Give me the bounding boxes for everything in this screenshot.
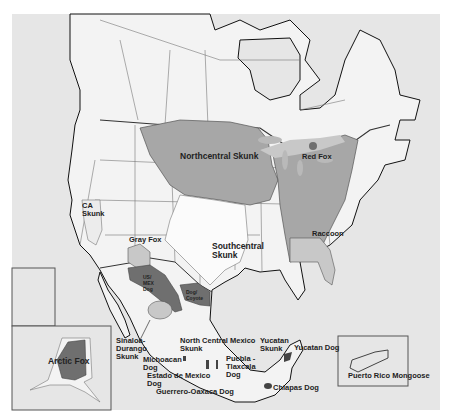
label-north-central-mexico-skunk: North Central Mexico Skunk bbox=[180, 337, 255, 353]
region-sinaloa-durango-skunk bbox=[148, 301, 172, 319]
label-northcentral-skunk: Northcentral Skunk bbox=[180, 152, 258, 161]
label-southcentral-skunk: Southcentral Skunk bbox=[212, 242, 264, 260]
label-dog-coyote: Dog/ Coyote bbox=[186, 289, 203, 301]
label-yucatan-skunk: Yucatan Skunk bbox=[260, 337, 289, 353]
estado-de-mexico-dog-spot bbox=[206, 360, 209, 369]
label-chiapas-dog: Chiapas Dog bbox=[273, 384, 319, 392]
rabies-variant-map: Northcentral Skunk Red Fox CA Skunk Gray… bbox=[0, 0, 454, 418]
label-estado-de-mexico-dog: Estado de Mexico Dog bbox=[147, 372, 210, 388]
puebla-dog-spot bbox=[216, 360, 218, 369]
label-arctic-fox: Arctic Fox bbox=[48, 357, 90, 366]
label-michoacan-dog: Michoacan Dog bbox=[143, 356, 182, 372]
label-gray-fox: Gray Fox bbox=[129, 236, 162, 244]
label-guerrero-oaxaca-dog: Guerrero-Oaxaca Dog bbox=[156, 388, 234, 396]
label-ca-skunk: CA Skunk bbox=[82, 202, 105, 218]
michoacan-dog-spot bbox=[183, 356, 186, 361]
red-fox-focus bbox=[309, 142, 317, 150]
label-yucatan-dog: Yucatan Dog bbox=[294, 344, 339, 352]
label-us-mex-dog: US/ MEX Dog bbox=[143, 274, 154, 292]
label-puerto-rico-mongoose: Puerto Rico Mongoose bbox=[348, 372, 430, 380]
label-raccoon: Raccoon bbox=[312, 230, 344, 238]
label-red-fox: Red Fox bbox=[302, 153, 332, 161]
label-puebla-tlaxcala-dog: Puebla - Tlaxcala Dog bbox=[226, 355, 256, 379]
chiapas-dog-spot bbox=[264, 383, 272, 389]
